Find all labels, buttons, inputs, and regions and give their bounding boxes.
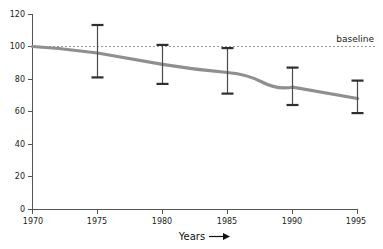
chart-canvas: 0 20 40 60 80 100 120 1970 1975 1980 198… (0, 0, 383, 249)
y-tick-label-0: 0 (20, 205, 25, 214)
x-tick-label-1970: 1970 (23, 217, 43, 226)
y-tick-label-80: 80 (15, 75, 25, 84)
y-tick-label-100: 100 (10, 42, 25, 51)
x-tick-label-1990: 1990 (282, 217, 302, 226)
x-tick-label-1980: 1980 (152, 217, 172, 226)
y-tick-label-20: 20 (15, 172, 25, 181)
line-chart: 0 20 40 60 80 100 120 1970 1975 1980 198… (0, 0, 383, 249)
chart-background (0, 0, 383, 249)
baseline-label: baseline (336, 34, 374, 44)
x-axis-title: Years (178, 231, 205, 242)
y-tick-label-60: 60 (15, 107, 25, 116)
y-tick-label-40: 40 (15, 140, 25, 149)
x-tick-label-1975: 1975 (87, 217, 107, 226)
x-tick-label-1985: 1985 (217, 217, 237, 226)
y-tick-label-120: 120 (10, 10, 25, 19)
x-tick-label-1995: 1995 (346, 217, 366, 226)
